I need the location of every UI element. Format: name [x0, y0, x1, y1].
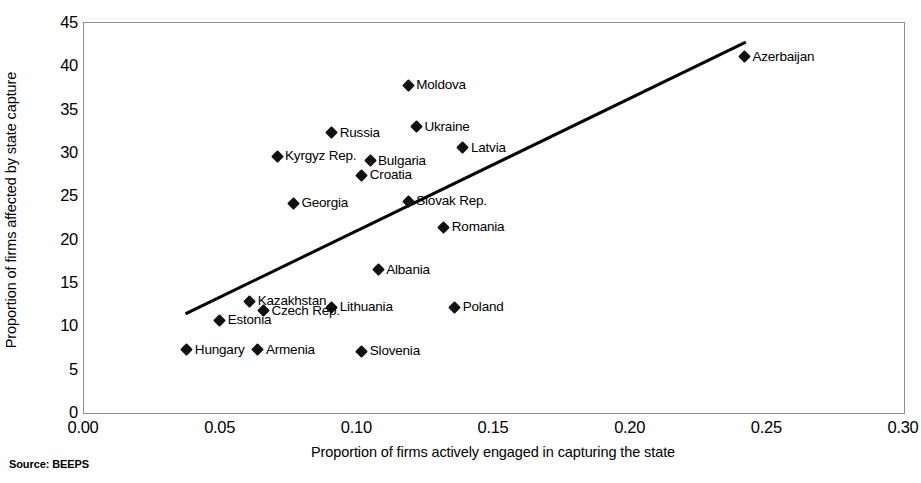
y-tick-label: 10: [44, 317, 78, 333]
y-tick-label: 40: [44, 57, 78, 73]
source-note: Source: BEEPS: [9, 458, 89, 470]
y-axis-tick-labels: 051015202530354045: [34, 0, 78, 483]
x-axis-title: Proportion of firms actively engaged in …: [83, 444, 903, 460]
x-tick-label: 0.00: [68, 419, 99, 435]
x-tick-label: 0.25: [751, 419, 782, 435]
y-tick-label: 30: [44, 144, 78, 160]
y-tick-label: 35: [44, 101, 78, 117]
y-tick-label: 25: [44, 187, 78, 203]
y-axis-title: Proportion of firms affected by state ca…: [0, 0, 22, 420]
x-tick-label: 0.10: [341, 419, 372, 435]
x-tick-label: 0.15: [478, 419, 509, 435]
x-axis-tick-labels: 0.000.050.100.150.200.250.30: [0, 419, 921, 441]
y-tick-label: 5: [44, 361, 78, 377]
x-tick-label: 0.05: [204, 419, 235, 435]
scatter-plot-figure: Proportion of firms affected by state ca…: [0, 0, 921, 483]
y-tick-label: 20: [44, 231, 78, 247]
y-tick-label: 15: [44, 274, 78, 290]
x-tick-label: 0.20: [614, 419, 645, 435]
y-tick-label: 45: [44, 14, 78, 30]
plot-area: [83, 22, 905, 414]
x-tick-label: 0.30: [888, 419, 919, 435]
